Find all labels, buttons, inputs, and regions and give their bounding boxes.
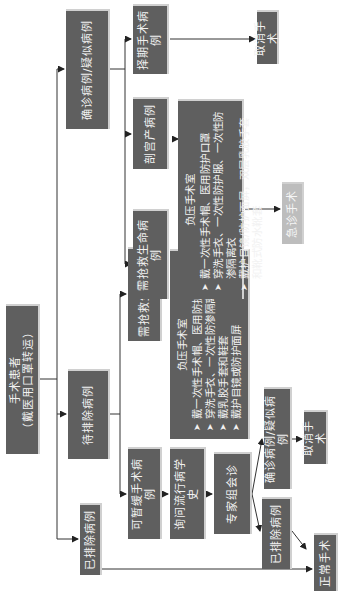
node-excluded-cases: 已排除病例 [80, 503, 102, 575]
ppe-item: 穿洗手衣、一次性防护服、一次性防渗隔离衣 [212, 109, 238, 291]
node-expert-consultation: 专家组会诊 [214, 452, 252, 534]
ppe-item: 戴护目镜/防护面屏，双层乳胶手套和靴式防水靴套 [238, 109, 264, 291]
node-label: 已排除病例 [270, 504, 283, 564]
ppe-list: 戴一次性手术帽、医用防护口罩 穿洗手衣、一次性防护服、一次性防渗隔离衣 戴护目镜… [199, 109, 264, 291]
node-label: 可暂缓手术病例 [131, 453, 157, 535]
node-label: 取消手术 [302, 416, 328, 460]
node-epidemiological-history: 询问流行病学史 [170, 447, 206, 539]
node-cesarean: 剖宫产病例 [133, 97, 169, 169]
node-cancel-surgery-pending: 取消手术 [304, 410, 328, 464]
node-cancel-surgery-confirmed: 取消手术 [257, 10, 279, 64]
node-deferrable-surgery: 可暂缓手术病例 [128, 447, 162, 539]
node-label: 已排除病例 [84, 510, 97, 570]
node-elective-surgery: 择期手术病例 [133, 4, 169, 74]
node-label: 急诊手术 [286, 190, 299, 238]
node-label: 待排除病例 [82, 385, 95, 445]
node-emergency-surgery: 急诊手术 [282, 182, 304, 244]
root-node-surgical-patient: 手术患者 （戴医用口罩转运） [6, 304, 40, 454]
node-label: 专家组会诊 [226, 464, 239, 524]
node-confirmed-suspected-cases: 确诊病例/疑似病例 [66, 9, 110, 129]
node-urgent-life-saving-confirmed: 需抢救生命病例 [133, 209, 169, 299]
node-consult-confirmed: 确诊病例/疑似病例 [264, 387, 292, 489]
node-normal-surgery: 正常手术 [314, 533, 338, 591]
node-label: 择期手术病例 [137, 10, 163, 70]
ppe-box-confirmed-urgent: 负压手术室 戴一次性手术帽、医用防护口罩 穿洗手衣、一次性防护服、一次性防渗隔离… [178, 99, 244, 299]
node-label: 需抢救生命病例 [137, 215, 163, 295]
node-label: 取消手术 [254, 16, 280, 60]
ppe-title: 负压手术室 [184, 109, 197, 291]
root-subtitle: （戴医用口罩转运） [22, 326, 35, 434]
ppe-item: 戴一次性手术帽、医用防护口罩 [199, 109, 212, 291]
node-label: 剖宫产病例 [144, 104, 157, 164]
root-title: 手术患者 [9, 356, 22, 404]
node-label: 确诊病例/疑似病例 [81, 20, 94, 121]
flowchart-canvas: 手术患者 （戴医用口罩转运） 已排除病例 待排除病例 确诊病例/疑似病例 可暂缓… [0, 0, 342, 599]
node-label: 询问流行病学史 [174, 453, 200, 535]
node-pending-cases: 待排除病例 [68, 369, 110, 459]
node-consult-excluded: 已排除病例 [262, 497, 292, 569]
node-label: 确诊病例/疑似病例 [264, 393, 290, 485]
node-label: 正常手术 [319, 539, 332, 587]
